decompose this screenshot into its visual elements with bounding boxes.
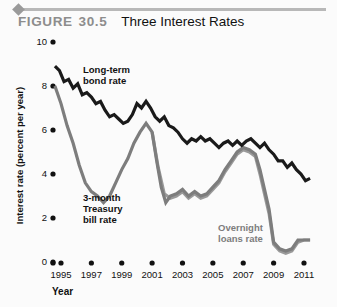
y-axis-tick-label: 4 — [25, 168, 47, 179]
x-axis-tick-label: 2011 — [287, 269, 321, 280]
y-axis-tick-label: 8 — [25, 80, 47, 91]
x-axis-tick-label: 2001 — [135, 269, 169, 280]
y-axis-tick-label: 10 — [25, 36, 47, 47]
x-axis-tick-label: 1995 — [44, 269, 78, 280]
chart-plot-area — [0, 0, 337, 307]
annotation-long-term-bond-rate: Long-term bond rate — [83, 64, 130, 86]
x-axis-tick-label: 1999 — [105, 269, 139, 280]
chart-svg — [0, 0, 337, 307]
y-axis-tick-label: 2 — [25, 212, 47, 223]
x-axis-tick-label: 2003 — [166, 269, 200, 280]
y-axis-tick-label: 6 — [25, 124, 47, 135]
annotation-treasury-bill-rate: 3-month Treasury bill rate — [83, 192, 123, 225]
y-axis-tick-label: 0 — [25, 256, 47, 267]
y-axis-title: Interest rate (percent per year) — [14, 81, 25, 231]
x-axis-title: Year — [52, 286, 73, 297]
x-axis-tick-label: 2009 — [257, 269, 291, 280]
x-axis-tick-label: 2005 — [196, 269, 230, 280]
annotation-overnight-loans-rate: Overnight loans rate — [218, 222, 263, 244]
figure-panel: FIGURE 30.5 Three Interest Rates Interes… — [0, 0, 337, 307]
x-axis-tick-label: 2007 — [226, 269, 260, 280]
x-axis-tick-label: 1997 — [74, 269, 108, 280]
